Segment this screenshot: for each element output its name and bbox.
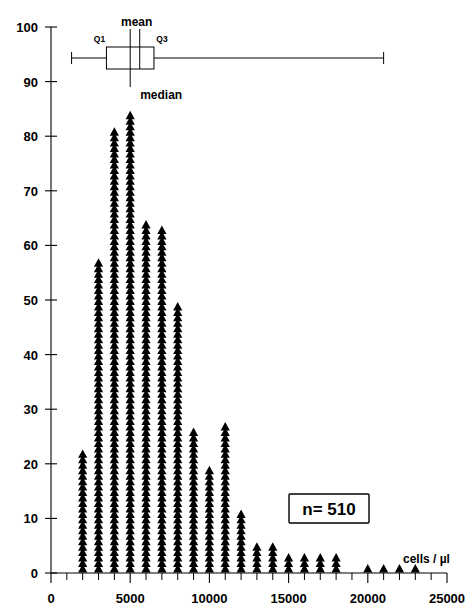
data-point-marker: [221, 422, 230, 430]
x-tick-label: 20000: [350, 591, 386, 606]
histogram-column: [316, 553, 325, 572]
x-axis-title: cells / µl: [403, 552, 450, 566]
histogram-column: [126, 111, 135, 573]
histogram-column: [157, 226, 166, 573]
data-point-marker: [110, 127, 119, 135]
data-point-marker: [332, 553, 341, 561]
y-tick-label: 0: [31, 566, 38, 581]
histogram-column: [173, 302, 182, 573]
x-axis-major-ticks: [51, 573, 447, 583]
histogram-column: [379, 564, 388, 572]
data-point-marker: [236, 509, 245, 517]
data-point-marker: [126, 111, 135, 119]
boxplot-mean-label: mean: [121, 15, 152, 29]
y-tick-label: 80: [24, 129, 38, 144]
x-axis-tick-labels: 0500010000150002000025000: [47, 591, 465, 606]
y-tick-label: 100: [16, 20, 38, 35]
data-point-marker: [252, 542, 261, 550]
x-tick-label: 0: [47, 591, 54, 606]
histogram-column: [94, 258, 103, 572]
data-point-marker: [78, 449, 87, 457]
y-tick-label: 10: [24, 511, 38, 526]
boxplot-q1-label: Q1: [94, 34, 106, 44]
x-tick-label: 25000: [429, 591, 465, 606]
histogram-column: [110, 127, 119, 572]
x-axis-minor-ticks: [67, 573, 431, 580]
y-tick-label: 70: [24, 184, 38, 199]
y-tick-label: 30: [24, 402, 38, 417]
data-point-marker: [300, 553, 309, 561]
boxplot-q3-label: Q3: [156, 34, 168, 44]
data-point-marker: [189, 428, 198, 436]
data-point-marker: [316, 553, 325, 561]
histogram-column: [189, 428, 198, 573]
data-point-marker: [94, 258, 103, 266]
y-tick-label: 40: [24, 348, 38, 363]
histogram-column: [332, 553, 341, 572]
histogram-column: [78, 449, 87, 572]
chart-figure: 0102030405060708090100 05000100001500020…: [0, 0, 471, 611]
y-axis: 0102030405060708090100: [16, 20, 57, 581]
boxplot: [72, 29, 384, 87]
data-point-marker: [141, 220, 150, 228]
histogram-column: [236, 509, 245, 572]
data-point-marker: [284, 553, 293, 561]
histogram-column: [284, 553, 293, 572]
data-point-marker: [379, 564, 388, 572]
x-tick-label: 5000: [116, 591, 145, 606]
y-tick-label: 60: [24, 238, 38, 253]
histogram-column: [252, 542, 261, 572]
data-point-marker: [363, 564, 372, 572]
sample-size-text: n= 510: [302, 500, 355, 519]
boxplot-median-label: median: [140, 88, 182, 102]
histogram-column: [221, 422, 230, 572]
data-point-marker: [268, 542, 277, 550]
x-tick-label: 10000: [191, 591, 227, 606]
x-tick-label: 15000: [271, 591, 307, 606]
histogram-column: [141, 220, 150, 572]
y-tick-label: 90: [24, 75, 38, 90]
data-point-marker: [157, 226, 166, 234]
y-axis-tick-labels: 0102030405060708090100: [16, 20, 38, 581]
data-point-marker: [173, 302, 182, 310]
data-point-marker: [205, 466, 214, 474]
histogram-svg: 0102030405060708090100 05000100001500020…: [0, 0, 471, 611]
histogram-column: [300, 553, 309, 572]
histogram-column: [205, 466, 214, 573]
histogram-column: [363, 564, 372, 572]
y-tick-label: 50: [24, 293, 38, 308]
y-tick-label: 20: [24, 457, 38, 472]
histogram-column: [268, 542, 277, 572]
sample-size-annotation: n= 510: [289, 494, 369, 523]
